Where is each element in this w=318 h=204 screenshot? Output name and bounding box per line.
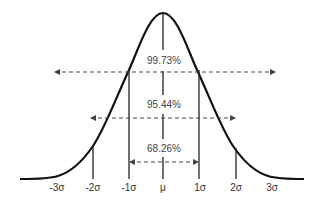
- label-68-26: 68.26%: [146, 143, 182, 154]
- label-95-44: 95.44%: [146, 99, 182, 110]
- axis-label-plus-3-sigma: 3σ: [266, 182, 278, 193]
- axis-label-minus-3-sigma: -3σ: [49, 182, 64, 193]
- axis-label-mu: μ: [160, 182, 166, 193]
- normal-curve: [20, 13, 304, 179]
- axis-label-minus-2-sigma: -2σ: [85, 182, 100, 193]
- axis-label-plus-1-sigma: 1σ: [194, 182, 206, 193]
- label-99-73: 99.73%: [146, 55, 182, 66]
- axis-label-minus-1-sigma: -1σ: [121, 182, 136, 193]
- axis-label-plus-2-sigma: 2σ: [230, 182, 242, 193]
